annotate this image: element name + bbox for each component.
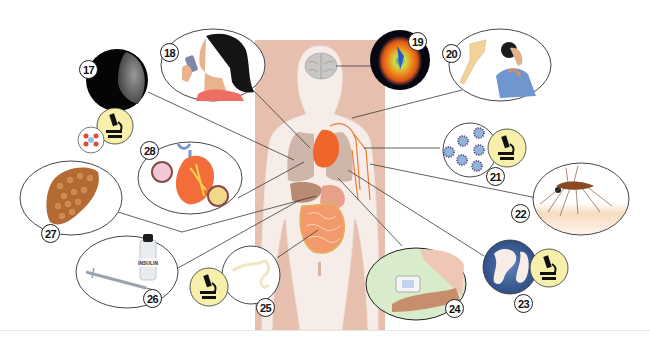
insulin-label: INSULIN: [138, 260, 158, 266]
callout-25-intestinal-worm: [190, 246, 280, 306]
callout-badge-19: 19: [408, 32, 427, 51]
callout-badge-18: 18: [160, 43, 179, 62]
callout-badge-23: 23: [514, 294, 533, 313]
callout-badge-27: 27: [41, 224, 60, 243]
callout-26-insulin: INSULIN: [76, 234, 178, 308]
callout-20-shoulder-pain: [449, 29, 551, 101]
callout-badge-17: 17: [79, 60, 98, 79]
callout-22-mosquito: [533, 163, 629, 235]
callout-badge-28: 28: [140, 141, 159, 160]
callout-23-worms: [483, 240, 568, 294]
callout-badge-25: 25: [256, 298, 275, 317]
callout-badge-22: 22: [511, 204, 530, 223]
callout-badge-26: 26: [143, 289, 162, 308]
bottom-divider: [0, 330, 650, 331]
callout-21-virus: [443, 123, 526, 177]
callout-18-asthma: [161, 29, 265, 101]
callout-badge-21: 21: [486, 167, 505, 186]
callout-27-liver: [20, 161, 122, 235]
callout-badge-24: 24: [445, 299, 464, 318]
body-diagram: INSULIN: [0, 0, 650, 340]
callout-badge-20: 20: [442, 44, 461, 63]
